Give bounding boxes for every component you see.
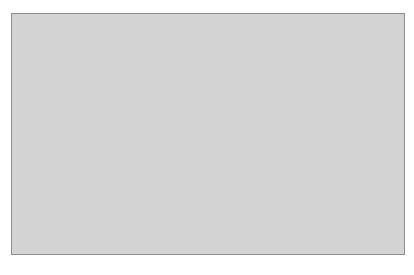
chart-canvas <box>0 0 414 275</box>
